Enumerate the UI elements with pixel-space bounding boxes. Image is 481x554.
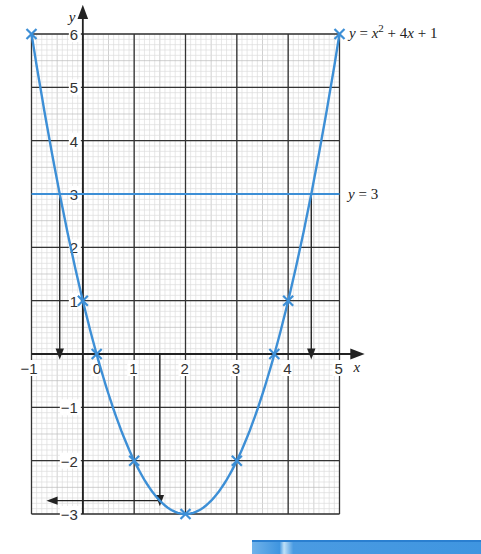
parabola-equation-label: y = x2 + 4x + 1 (347, 22, 437, 41)
x-tick-label: 5 (335, 360, 343, 377)
x-tick-label: 1 (129, 360, 137, 377)
y-tick-label: −2 (61, 453, 78, 470)
decorative-banner (252, 540, 481, 554)
y-axis-label: y (67, 9, 76, 25)
y-tick-label: −1 (61, 399, 78, 416)
x-tick-label: −1 (21, 360, 38, 377)
y-tick-label: 6 (70, 26, 78, 43)
x-tick-label: 2 (181, 360, 189, 377)
y-tick-label: −3 (61, 506, 78, 523)
y-tick-label: 1 (70, 293, 78, 310)
x-tick-label: 4 (283, 360, 291, 377)
x-tick-label: 3 (232, 360, 240, 377)
y-tick-label: 4 (70, 133, 78, 150)
y-tick-label: 5 (70, 79, 78, 96)
line-equation-label: y = 3 (346, 186, 378, 202)
x-axis-label: x (353, 359, 361, 375)
